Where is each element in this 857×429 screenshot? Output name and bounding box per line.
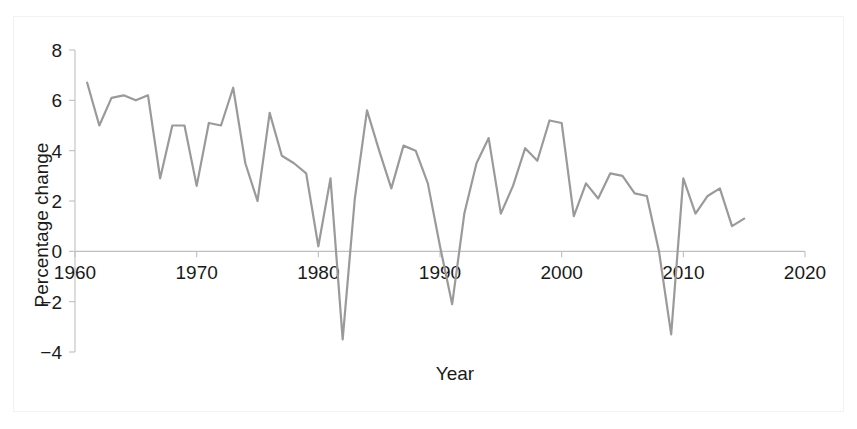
y-tick-label: 6 xyxy=(51,90,62,111)
chart-figure: −4−202468 1960197019801990200020102020 P… xyxy=(0,0,857,429)
x-axis xyxy=(75,251,805,257)
x-tick-label: 2000 xyxy=(541,262,583,283)
x-tick-label: 2020 xyxy=(784,262,826,283)
data-series-line xyxy=(87,83,744,340)
y-tick-label: 0 xyxy=(51,241,62,262)
x-tick-label: 2010 xyxy=(662,262,704,283)
x-tick-label: 1960 xyxy=(54,262,96,283)
x-tick-labels: 1960197019801990200020102020 xyxy=(54,262,826,283)
y-tick-label: 4 xyxy=(51,141,62,162)
x-axis-title: Year xyxy=(436,363,475,384)
y-tick-label: 2 xyxy=(51,191,62,212)
y-tick-label: 8 xyxy=(51,40,62,61)
y-axis xyxy=(69,50,75,352)
x-tick-label: 1970 xyxy=(176,262,218,283)
line-chart-plot: −4−202468 1960197019801990200020102020 P… xyxy=(0,0,857,429)
x-tick-label: 1980 xyxy=(297,262,339,283)
y-axis-title: Percentage change xyxy=(31,143,52,308)
y-tick-label: −4 xyxy=(40,342,62,363)
